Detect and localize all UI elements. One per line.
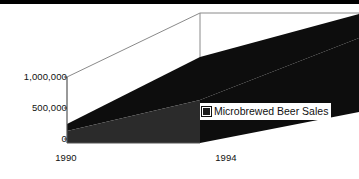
x-axis-tick-label: 1990 bbox=[40, 152, 92, 163]
x-axis-tick-label: 1994 bbox=[200, 152, 252, 163]
chart-figure: 1,000,000 500,000 0 1990 1994 Microbrewe… bbox=[0, 0, 359, 179]
legend-entry-label: Microbrewed Beer Sales bbox=[214, 106, 328, 117]
y-axis-tick-label: 0 bbox=[62, 133, 67, 144]
y-axis-tick-label: 500,000 bbox=[32, 102, 67, 113]
legend-swatch-icon bbox=[202, 107, 211, 116]
chart-legend: Microbrewed Beer Sales bbox=[200, 103, 331, 120]
y-axis-tick-label: 1,000,000 bbox=[24, 71, 67, 82]
